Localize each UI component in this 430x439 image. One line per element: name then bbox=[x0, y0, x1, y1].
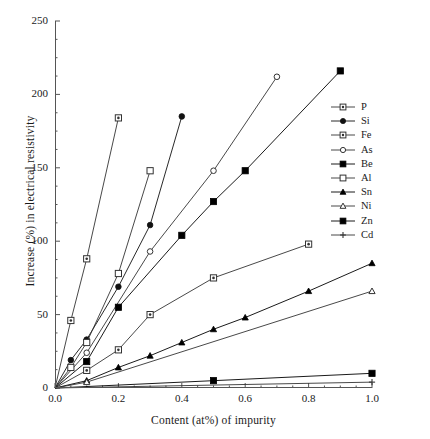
legend-label: Be bbox=[361, 157, 373, 171]
x-tick-label: 0.6 bbox=[225, 392, 265, 404]
legend-label: Ni bbox=[361, 199, 372, 213]
legend-marker-open-square-icon bbox=[330, 172, 356, 184]
legend-item-zn[interactable]: Zn bbox=[330, 214, 373, 228]
legend-label: Si bbox=[361, 114, 370, 128]
legend-item-sn[interactable]: Sn bbox=[330, 185, 373, 199]
legend-marker-filled-square-icon bbox=[330, 215, 356, 227]
legend-marker-filled-circle-icon bbox=[330, 115, 356, 127]
x-tick-label: 0.0 bbox=[35, 392, 75, 404]
legend-label: As bbox=[361, 143, 373, 157]
x-tick-label: 1.0 bbox=[352, 392, 392, 404]
legend-marker-filled-square-icon bbox=[330, 158, 356, 170]
legend-label: Sn bbox=[361, 185, 372, 199]
legend-marker-open-triangle-icon bbox=[330, 200, 356, 212]
legend-marker-plus-icon bbox=[330, 229, 356, 241]
x-axis-title: Content (at%) of impurity bbox=[55, 414, 372, 426]
legend-marker-open-circle-icon bbox=[330, 144, 356, 156]
y-tick-label: 0 bbox=[14, 381, 48, 393]
legend-label: P bbox=[361, 100, 367, 114]
resistivity-chart-figure: 0.00.20.40.60.81.0 050100150200250 Conte… bbox=[0, 0, 430, 439]
legend-label: Zn bbox=[361, 214, 373, 228]
plot-frame bbox=[55, 21, 372, 388]
legend-item-be[interactable]: Be bbox=[330, 157, 373, 171]
legend-marker-filled-triangle-icon bbox=[330, 186, 356, 198]
legend-item-p[interactable]: P bbox=[330, 100, 373, 114]
x-tick-label: 0.2 bbox=[98, 392, 138, 404]
legend-item-al[interactable]: Al bbox=[330, 171, 373, 185]
chart-legend: PSiFeAsBeAlSnNiZnCd bbox=[330, 100, 373, 242]
legend-label: Fe bbox=[361, 128, 372, 142]
legend-item-cd[interactable]: Cd bbox=[330, 228, 373, 242]
legend-item-as[interactable]: As bbox=[330, 143, 373, 157]
legend-item-ni[interactable]: Ni bbox=[330, 199, 373, 213]
x-tick-label: 0.8 bbox=[289, 392, 329, 404]
legend-marker-crossed-square-icon bbox=[330, 101, 356, 113]
legend-item-si[interactable]: Si bbox=[330, 114, 373, 128]
y-axis-title: Increase (%) in electrical resistivity bbox=[24, 21, 36, 381]
legend-item-fe[interactable]: Fe bbox=[330, 128, 373, 142]
legend-label: Al bbox=[361, 171, 372, 185]
legend-marker-crossed-square-icon bbox=[330, 129, 356, 141]
x-tick-label: 0.4 bbox=[162, 392, 202, 404]
legend-label: Cd bbox=[361, 228, 373, 242]
